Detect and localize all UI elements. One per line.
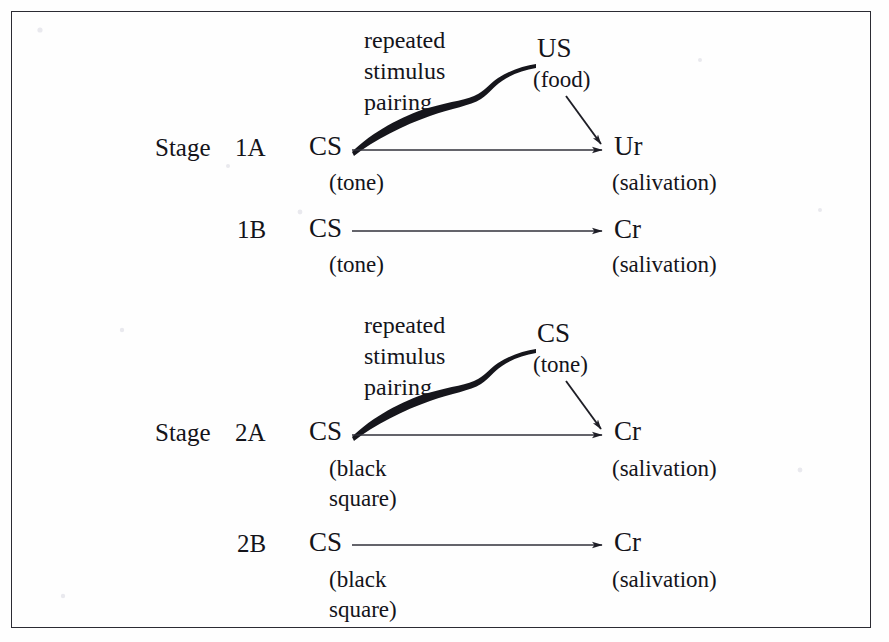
stage-1b-row-label: 1B [237,216,266,243]
stage-1b-target-paren: (salivation) [612,252,717,277]
stage-2a-arrow-diagonal-down-right-icon [566,381,601,429]
stage-1a-stage-label: Stage [155,134,211,161]
stage-2b-target-paren: (salivation) [612,567,717,592]
stage-2b-target-term: Cr [614,527,641,557]
stage-2b-row-label: 2B [237,530,266,557]
conditioning-diagram: Stage 1A CS (tone) repeated stimulus pai… [0,0,889,642]
row-stage-2b: 2B CS (black square) Cr (salivation) [237,527,717,622]
stage-2a-source-term: CS [309,416,342,446]
stage-2a-stage-label: Stage [155,419,211,446]
stage-2a-curve-paren: (tone) [533,352,588,377]
stage-2a-note-line-2: stimulus [364,343,445,369]
row-stage-1a: Stage 1A CS (tone) repeated stimulus pai… [155,27,717,195]
stage-1a-row-label: 1A [235,134,266,161]
figure-page: Stage 1A CS (tone) repeated stimulus pai… [0,0,889,642]
stage-1a-curve-term: US [537,33,572,63]
stage-1b-target-term: Cr [614,214,641,244]
stage-2a-source-paren-2: square) [329,486,397,511]
stage-1a-source-paren-1: (tone) [329,170,384,195]
stage-2a-curve-term: CS [537,318,570,348]
stage-2b-source-term: CS [309,527,342,557]
stage-1b-source-paren-1: (tone) [329,252,384,277]
stage-1a-target-paren: (salivation) [612,170,717,195]
row-stage-2a: Stage 2A CS (black square) repeated stim… [155,312,717,511]
stage-2a-target-paren: (salivation) [612,456,717,481]
stage-1a-target-term: Ur [614,131,643,161]
stage-1a-note-line-1: repeated [364,27,445,53]
stage-1a-arrow-diagonal-down-right-icon [566,96,601,144]
stage-2a-source-paren-1: (black [329,456,387,481]
row-stage-1b: 1B CS (tone) Cr (salivation) [237,213,717,277]
stage-2a-note-line-1: repeated [364,312,445,338]
stage-1a-source-term: CS [309,131,342,161]
stage-2b-source-paren-1: (black [329,567,387,592]
stage-1a-curve-paren: (food) [533,67,590,92]
stage-1b-source-term: CS [309,213,342,243]
stage-1a-note-line-2: stimulus [364,58,445,84]
stage-2a-row-label: 2A [235,419,266,446]
stage-2a-target-term: Cr [614,416,641,446]
stage-2b-source-paren-2: square) [329,597,397,622]
